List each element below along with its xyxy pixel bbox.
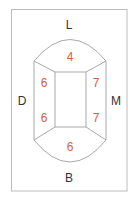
frame-border bbox=[12, 10, 128, 192]
surface-value-right-lower: 7 bbox=[93, 111, 100, 125]
divider-bottom-right bbox=[86, 127, 106, 140]
surface-value-top: 4 bbox=[67, 50, 74, 64]
occlusal-center bbox=[55, 72, 86, 127]
surface-value-bottom: 6 bbox=[67, 140, 74, 154]
divider-top-left bbox=[34, 61, 55, 72]
surface-value-left-upper: 6 bbox=[41, 76, 48, 90]
divider-bottom-left bbox=[34, 127, 55, 140]
direction-label-left: D bbox=[18, 94, 27, 108]
surface-value-left-lower: 6 bbox=[41, 111, 48, 125]
tooth-diagram: L B D M 4 6 6 7 7 6 bbox=[0, 0, 131, 204]
divider-top-right bbox=[86, 61, 106, 72]
direction-label-top: L bbox=[66, 18, 73, 32]
surface-value-right-upper: 7 bbox=[93, 76, 100, 90]
direction-label-right: M bbox=[111, 94, 121, 108]
direction-label-bottom: B bbox=[65, 171, 73, 185]
